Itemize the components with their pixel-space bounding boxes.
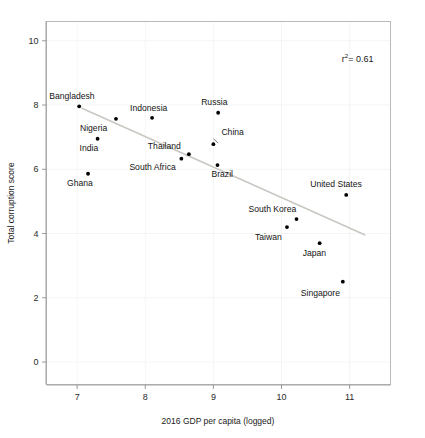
data-point [295, 217, 299, 221]
scatter-plot: 0246810 7891011 BangladeshNigeriaIndiaGh… [0, 0, 425, 438]
chart-container: 0246810 7891011 BangladeshNigeriaIndiaGh… [0, 0, 425, 438]
data-point-label: Indonesia [130, 103, 167, 113]
data-point [341, 280, 345, 284]
data-point-label: Singapore [301, 288, 340, 298]
data-point-label: China [221, 127, 244, 137]
x-axis-tick-label: 10 [277, 392, 287, 402]
y-axis-tick-label: 6 [33, 164, 38, 174]
data-point [318, 241, 322, 245]
data-point-label: Ghana [67, 178, 93, 188]
data-point-label: South Korea [248, 204, 296, 214]
x-axis-tick-label: 9 [211, 392, 216, 402]
data-point [96, 137, 100, 141]
r-squared-value: = 0.61 [348, 54, 373, 64]
data-point-label: South Africa [129, 162, 176, 172]
label-leader-line [213, 139, 218, 143]
data-point [216, 111, 220, 115]
data-point [211, 142, 215, 146]
data-point-label: Russia [201, 97, 227, 107]
y-axis-tick-label: 2 [33, 293, 38, 303]
x-axis: 7891011 [47, 385, 391, 402]
y-axis-title: Total corruption score [6, 162, 16, 244]
r-squared-text: r2= 0.61 [342, 52, 374, 63]
data-point [150, 116, 154, 120]
y-axis-tick-label: 0 [33, 357, 38, 367]
data-point [114, 117, 118, 121]
data-point-label: Nigeria [80, 123, 107, 133]
data-point-label: Bangladesh [49, 91, 95, 101]
data-point-label: India [80, 143, 99, 153]
y-axis: 0246810 [28, 22, 46, 385]
data-point [179, 157, 183, 161]
data-point-label: Taiwan [255, 232, 282, 242]
data-point [77, 104, 81, 108]
data-point [86, 172, 90, 176]
x-axis-tick-label: 8 [143, 392, 148, 402]
label-leader-lines [213, 139, 218, 143]
x-axis-title: 2016 GDP per capita (logged) [162, 416, 275, 426]
data-point-label: Brazil [211, 169, 233, 179]
x-axis-tick-label: 11 [345, 392, 354, 402]
x-axis-tick-label: 7 [75, 392, 80, 402]
y-axis-tick-label: 8 [33, 100, 38, 110]
data-point [187, 152, 191, 156]
data-point [344, 193, 348, 197]
data-point [216, 163, 220, 167]
data-point-label: Thailand [148, 141, 181, 151]
data-point-label: Japan [303, 248, 327, 258]
gridlines [47, 22, 391, 385]
plot-panel-border [47, 22, 391, 385]
r-squared-annotation: r2= 0.61 [342, 52, 374, 63]
data-point-labels: BangladeshNigeriaIndiaGhanaIndonesiaThai… [49, 91, 362, 297]
data-point [285, 225, 289, 229]
chart-annotations: r2= 0.61 [342, 52, 374, 63]
y-axis-tick-label: 10 [28, 36, 38, 46]
y-axis-tick-label: 4 [33, 229, 38, 239]
data-point-label: United States [310, 179, 362, 189]
